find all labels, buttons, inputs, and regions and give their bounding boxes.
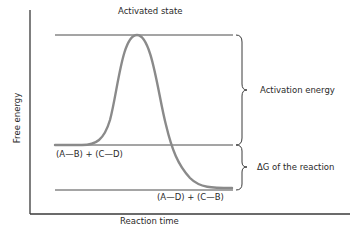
delta-g-brace <box>236 145 247 190</box>
y-axis-label: Free energy <box>13 93 22 143</box>
activated-state-label: Activated state <box>118 7 182 16</box>
x-axis-label: Reaction time <box>120 217 179 226</box>
activation-energy-brace <box>236 35 247 145</box>
products-label: (A—D) + (C—B) <box>157 193 224 202</box>
activation-energy-label: Activation energy <box>260 86 335 95</box>
reaction-curve <box>55 35 232 188</box>
delta-g-label: ΔG of the reaction <box>257 163 334 172</box>
free-energy-diagram: Activated state (A—B) + (C—D) (A—D) + (C… <box>0 0 350 229</box>
reactants-label: (A—B) + (C—D) <box>56 150 123 159</box>
